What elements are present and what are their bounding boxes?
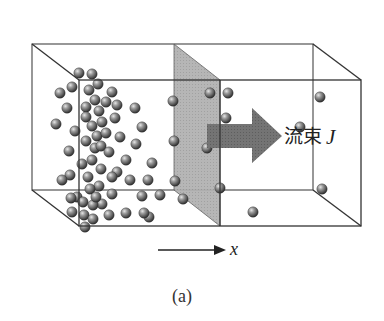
particle — [121, 208, 131, 218]
particle — [248, 207, 258, 217]
particle — [81, 112, 91, 122]
particle — [107, 189, 117, 199]
particle — [104, 210, 114, 220]
particle — [125, 175, 135, 185]
particle — [130, 103, 140, 113]
particle — [83, 172, 93, 182]
particle — [91, 192, 101, 202]
particle — [104, 147, 114, 157]
particle — [87, 121, 97, 131]
particle — [64, 146, 74, 156]
particle — [121, 155, 131, 165]
particle — [94, 106, 104, 116]
particle — [147, 158, 157, 168]
particle — [178, 194, 188, 204]
particle — [101, 128, 111, 138]
particle — [55, 88, 65, 98]
particle — [67, 82, 77, 92]
particle — [131, 139, 141, 149]
particle — [97, 117, 107, 127]
particle — [221, 113, 231, 123]
particle — [139, 208, 149, 218]
particle — [107, 87, 117, 97]
particle — [81, 136, 91, 146]
particle — [169, 136, 179, 146]
particle — [67, 207, 77, 217]
flux-symbol: J — [326, 125, 337, 149]
particle — [66, 193, 76, 203]
particle — [90, 95, 100, 105]
box-back-edges — [32, 44, 313, 190]
particle — [143, 175, 153, 185]
x-axis-arrow-icon — [158, 245, 226, 255]
particle — [112, 100, 122, 110]
particle — [107, 172, 117, 182]
particle — [87, 69, 97, 79]
particle — [223, 88, 233, 98]
figure-caption: (a) — [172, 286, 192, 307]
x-axis-label: x — [229, 239, 238, 259]
diffusion-flux-diagram: 流束 J x (a) — [0, 0, 384, 321]
particle — [88, 214, 98, 224]
particle — [137, 191, 147, 201]
particle — [317, 184, 327, 194]
particle — [62, 103, 72, 113]
particle — [84, 85, 94, 95]
particle — [96, 164, 106, 174]
particle — [137, 122, 147, 132]
particle — [155, 190, 165, 200]
particle — [101, 97, 111, 107]
particle — [57, 175, 67, 185]
particle — [110, 113, 120, 123]
particle — [81, 102, 91, 112]
particle — [80, 222, 90, 232]
particle — [170, 176, 180, 186]
flux-label: 流束 — [284, 125, 322, 147]
particle — [205, 88, 215, 98]
particle — [51, 119, 61, 129]
particle — [315, 92, 325, 102]
particle — [168, 96, 178, 106]
particle — [87, 155, 97, 165]
particle — [115, 132, 125, 142]
